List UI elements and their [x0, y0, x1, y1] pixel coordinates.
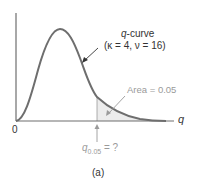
critical-rest: = ? — [101, 142, 118, 153]
critical-subscript: 0.05 — [88, 148, 102, 155]
origin-label: 0 — [12, 124, 18, 135]
curve-parameters: (κ = 4, ν = 16) — [104, 40, 166, 51]
figure-caption: (a) — [92, 167, 104, 178]
critical-value-label: q0.05 = ? — [82, 142, 118, 155]
arrow-head-icon — [95, 124, 100, 129]
curve-title: q-curve — [121, 28, 154, 39]
curve-pointer-arrow — [85, 48, 98, 60]
area-annotation: Area = 0.05 — [127, 84, 176, 95]
curve-title-rest: -curve — [127, 28, 155, 39]
q-curve-figure: q-curve (κ = 4, ν = 16) Area = 0.05 0 q … — [0, 0, 201, 186]
x-axis-label: q — [178, 113, 184, 125]
